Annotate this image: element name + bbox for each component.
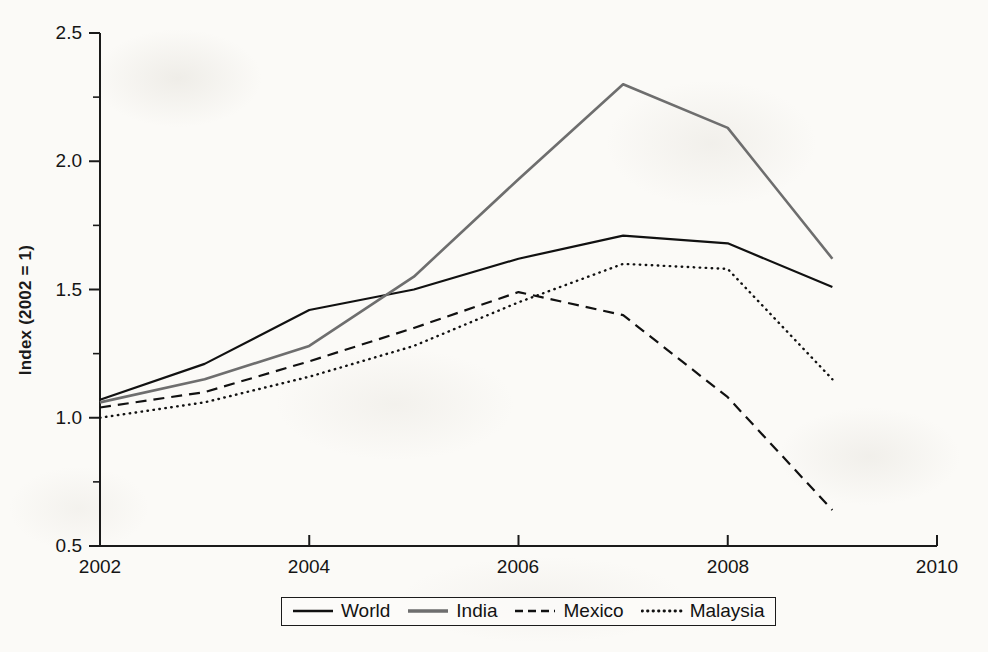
legend-swatch-world [292,605,334,617]
y-axis-ticks [89,33,100,546]
legend-label-malaysia: Malaysia [690,600,765,622]
legend-swatch-mexico [514,605,556,617]
data-series-group [100,84,832,510]
legend-swatch-malaysia [641,605,683,617]
chart-legend: World India Mexico Malaysia [281,597,776,626]
legend-entry-india: India [407,600,497,622]
legend-swatch-india [407,605,449,617]
legend-entry-malaysia: Malaysia [641,600,765,622]
axis-lines [100,33,937,546]
legend-entry-mexico: Mexico [514,600,623,622]
x-axis-ticks [100,535,937,546]
plot-area [0,0,988,652]
legend-label-mexico: Mexico [563,600,623,622]
series-line-malaysia [100,264,832,418]
legend-entry-world: World [292,600,390,622]
legend-label-world: World [341,600,390,622]
series-line-world [100,236,832,400]
legend-label-india: India [456,600,497,622]
chart-figure: Index (2002 = 1) 2.5 2.0 1.5 1.0 0.5 200… [0,0,988,652]
